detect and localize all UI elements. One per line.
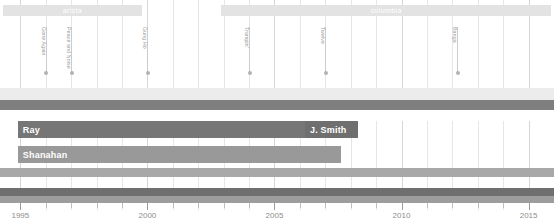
- axis-tick-minor: [478, 203, 479, 208]
- person-name-label: Ray: [18, 125, 40, 135]
- person-bar-shanahan[interactable]: Shanahan: [18, 146, 341, 163]
- album-title: Peace and Noise: [66, 27, 72, 69]
- axis-tick-major: [529, 203, 530, 210]
- person-bar-ray[interactable]: Ray: [18, 121, 351, 138]
- album-marker[interactable]: Peace and Noise: [71, 27, 72, 73]
- axis-tick-major: [20, 203, 21, 210]
- album-marker[interactable]: Trampin': [249, 27, 250, 73]
- album-dot-icon: [44, 71, 48, 75]
- album-dot-icon: [146, 71, 150, 75]
- album-title: Gone Again: [41, 27, 47, 56]
- album-marker[interactable]: Gone Again: [46, 27, 47, 73]
- record-label-name: columbia: [371, 5, 402, 16]
- axis-tick-minor: [173, 203, 174, 208]
- axis-tick-major: [402, 203, 403, 210]
- axis-tick-label: 2010: [393, 211, 411, 220]
- album-marker[interactable]: Twelve: [325, 27, 326, 73]
- record-label-name: arista: [63, 5, 83, 16]
- axis-tick-minor: [503, 203, 504, 208]
- album-title: Trampin': [244, 27, 250, 48]
- axis-tick-label: 2015: [520, 211, 538, 220]
- axis-tick-minor: [376, 203, 377, 208]
- band-mid-white: [0, 110, 554, 121]
- axis-tick-minor: [351, 203, 352, 208]
- album-title: Twelve: [320, 27, 326, 44]
- axis-tick-minor: [224, 203, 225, 208]
- album-title: Gung Ho: [142, 27, 148, 49]
- band-grey-lower: [0, 168, 554, 177]
- axis-tick-major: [147, 203, 148, 210]
- person-name-label: J. Smith: [305, 125, 347, 135]
- album-title: Banga: [452, 27, 458, 43]
- album-dot-icon: [456, 71, 460, 75]
- timeline-chart: aristacolumbia Gone AgainPeace and Noise…: [0, 0, 554, 224]
- axis-tick-minor: [325, 203, 326, 208]
- axis-tick-minor: [97, 203, 98, 208]
- album-marker[interactable]: Gung Ho: [147, 27, 148, 73]
- axis-tick-minor: [300, 203, 301, 208]
- axis-tick-major: [274, 203, 275, 210]
- axis-tick-minor: [452, 203, 453, 208]
- record-label-bar-arista[interactable]: arista: [3, 5, 143, 16]
- record-label-bar-columbia[interactable]: columbia: [221, 5, 551, 16]
- album-dot-icon: [324, 71, 328, 75]
- axis-tick-minor: [71, 203, 72, 208]
- album-dot-icon: [248, 71, 252, 75]
- album-dot-icon: [70, 71, 74, 75]
- band-light-top: [0, 88, 554, 100]
- axis-tick-minor: [427, 203, 428, 208]
- axis-tick-label: 2000: [138, 211, 156, 220]
- band-dark-upper: [0, 100, 554, 110]
- axis-line: [0, 196, 554, 203]
- axis-tick-minor: [46, 203, 47, 208]
- person-name-label: Shanahan: [18, 150, 68, 160]
- axis-tick-label: 1995: [11, 211, 29, 220]
- axis-tick-label: 2005: [266, 211, 284, 220]
- person-bar-j-smith[interactable]: J. Smith: [305, 121, 358, 138]
- axis-tick-minor: [122, 203, 123, 208]
- album-marker[interactable]: Banga: [457, 27, 458, 73]
- axis-tick-minor: [249, 203, 250, 208]
- axis-tick-minor: [198, 203, 199, 208]
